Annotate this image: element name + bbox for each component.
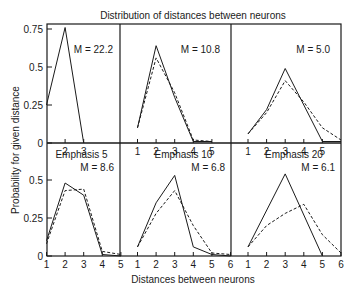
y-tick-label: 0.5 [29, 62, 43, 73]
mean-annotation: M = 5.0 [296, 44, 330, 55]
panel-top-right: 12345M = 5.0 [245, 44, 341, 157]
x-tick-label: 4 [301, 259, 307, 270]
y-tick-label: 0.5 [29, 175, 43, 186]
x-tick-label: 1 [135, 259, 141, 270]
chart-title: Distribution of distances between neuron… [100, 10, 286, 21]
panel-bottom-left: 1234500.250.5Emphasis 5M = 8.6 [24, 149, 125, 270]
mean-annotation: M = 10.8 [181, 44, 221, 55]
x-tick-label: 5 [320, 259, 326, 270]
mean-annotation: M = 6.8 [191, 162, 225, 173]
x-tick-label: 4 [191, 259, 197, 270]
x-tick-label: 6 [228, 259, 234, 270]
x-tick-label: 5 [209, 259, 215, 270]
x-tick-label: 2 [153, 259, 159, 270]
series-solid-line [248, 174, 322, 256]
x-tick-label: 1 [44, 259, 50, 270]
panel-label: Emphasis 20 [265, 149, 323, 160]
y-tick-label: 0 [37, 138, 43, 149]
series-solid-line [47, 183, 121, 256]
x-tick-label: 3 [172, 259, 178, 270]
panel-top-left: 2300.250.50.75M = 22.2 [24, 24, 114, 157]
x-tick-label: 1 [245, 146, 251, 157]
panel-label: Emphasis 10 [155, 149, 213, 160]
series-dashed-line [248, 204, 341, 253]
mean-annotation: M = 8.6 [80, 162, 114, 173]
x-tick-label: 1 [135, 146, 141, 157]
panel-bottom-middle: 123456Emphasis 10M = 6.8 [135, 149, 234, 270]
y-tick-label: 0.75 [24, 24, 44, 35]
series-dashed-line [47, 189, 121, 254]
series-solid-line [138, 175, 231, 256]
x-tick-label: 2 [264, 259, 270, 270]
mean-annotation: M = 22.2 [74, 44, 114, 55]
x-tick-label: 4 [100, 259, 106, 270]
x-tick-label: 6 [338, 259, 344, 270]
y-tick-label: 0 [37, 251, 43, 262]
x-tick-label: 1 [245, 259, 251, 270]
panels: 2300.250.50.75M = 22.212345M = 10.812345… [24, 24, 345, 270]
x-axis-label: Distances between neurons [131, 274, 254, 285]
series-dashed-line [248, 81, 341, 140]
mean-annotation: M = 6.1 [301, 162, 335, 173]
panel-label: Emphasis 5 [55, 149, 108, 160]
y-tick-label: 0.25 [24, 100, 44, 111]
chart-figure: Distribution of distances between neuron… [0, 0, 355, 294]
x-tick-label: 3 [282, 259, 288, 270]
y-axis-label: Probability for given distance [10, 86, 21, 214]
panel-top-middle: 12345M = 10.8 [135, 44, 221, 157]
plot-frame [47, 24, 341, 256]
series-dashed-line [138, 58, 212, 142]
x-tick-label: 2 [62, 259, 68, 270]
x-tick-label: 3 [81, 259, 87, 270]
y-tick-label: 0.25 [24, 213, 44, 224]
series-dashed-line [138, 191, 231, 255]
panel-bottom-right: 123456Emphasis 20M = 6.1 [245, 149, 344, 270]
x-tick-label: 5 [118, 259, 124, 270]
